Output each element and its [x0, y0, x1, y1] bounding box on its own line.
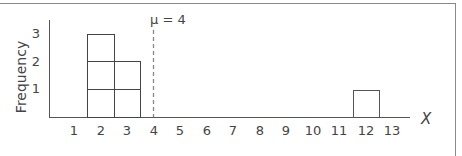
unit-box: [88, 62, 115, 90]
unit-box: [115, 90, 141, 118]
unit-box: [88, 90, 115, 118]
x-tick-10: 10: [305, 123, 322, 138]
y-tick-2: 2: [32, 54, 40, 69]
mean-label: μ = 4: [150, 12, 186, 27]
y-tick-3: 3: [32, 26, 40, 41]
unit-box: [88, 35, 115, 62]
x-tick-4: 4: [150, 123, 158, 138]
x-tick-7: 7: [229, 123, 237, 138]
bar-x3: [115, 62, 141, 118]
y-axis-label: Frequency: [13, 41, 29, 113]
unit-box: [354, 91, 380, 118]
x-tick-12: 12: [358, 123, 375, 138]
bar-x12: [354, 91, 380, 118]
unit-box: [115, 62, 141, 90]
x-tick-1: 1: [70, 123, 78, 138]
bar-x2: [88, 35, 115, 118]
x-tick-3: 3: [123, 123, 131, 138]
x-tick-13: 13: [384, 123, 401, 138]
x-tick-2: 2: [97, 123, 105, 138]
x-axis-label: X: [420, 110, 432, 128]
x-tick-6: 6: [203, 123, 211, 138]
x-tick-9: 9: [282, 123, 290, 138]
x-tick-8: 8: [256, 123, 264, 138]
x-tick-5: 5: [176, 123, 184, 138]
histogram-chart: Frequency 3 2 1 μ = 4 1 2 3 4 5 6 7 8 9 …: [0, 0, 462, 156]
y-tick-1: 1: [32, 81, 40, 96]
x-tick-11: 11: [331, 123, 348, 138]
